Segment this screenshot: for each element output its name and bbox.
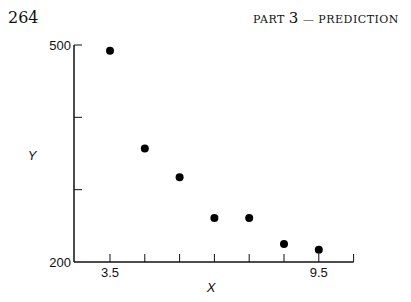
data-points bbox=[106, 47, 323, 254]
x-tick-label: 3.5 bbox=[101, 265, 119, 280]
y-tick-label: 500 bbox=[49, 38, 71, 53]
data-point bbox=[106, 47, 114, 55]
axes: 5002003.59.5 bbox=[49, 38, 353, 280]
data-point bbox=[210, 214, 218, 222]
data-point bbox=[176, 173, 184, 181]
x-axis-label: X bbox=[206, 280, 217, 295]
scatter-plot: 5002003.59.5 X Y bbox=[0, 0, 411, 302]
data-point bbox=[141, 144, 149, 152]
y-tick-label: 200 bbox=[49, 255, 71, 270]
data-point bbox=[245, 214, 253, 222]
data-point bbox=[315, 246, 323, 254]
x-tick-label: 9.5 bbox=[310, 265, 328, 280]
data-point bbox=[280, 240, 288, 248]
y-axis-label: Y bbox=[28, 148, 38, 163]
